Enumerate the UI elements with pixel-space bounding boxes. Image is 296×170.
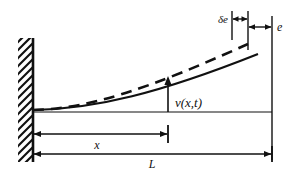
delta-e-dimension [233, 16, 248, 21]
fixed-support-wall [10, 20, 40, 170]
delta-e-label: δe [218, 13, 228, 25]
deflected-beam-dashed [33, 44, 248, 110]
wall-hatching [10, 20, 40, 170]
e-dimension [249, 24, 272, 29]
beam-deflection-figure: v(x,t) x L δe e [0, 0, 296, 170]
x-label: x [93, 138, 100, 152]
figure-canvas: v(x,t) x L δe e [0, 0, 296, 170]
x-dimension [34, 131, 168, 137]
e-label: e [277, 20, 283, 34]
deflection-label: v(x,t) [175, 95, 202, 110]
deflected-beam-solid [33, 54, 258, 110]
L-label: L [148, 157, 156, 170]
deflection-arrow [164, 76, 171, 112]
